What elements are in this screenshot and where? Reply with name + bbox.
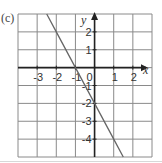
x-tick-label: -3 xyxy=(33,71,43,83)
graph-figure: (c) -3-2-101221-1-2-3-4 y x xyxy=(0,0,162,163)
x-tick-label: -2 xyxy=(52,71,62,83)
part-label: (c) xyxy=(1,11,14,25)
y-axis-label: y xyxy=(80,13,87,27)
y-axis-arrow-icon xyxy=(91,12,98,20)
x-axis-label: x xyxy=(142,63,149,77)
y-tick-label: 2 xyxy=(85,26,91,38)
x-tick-label: 1 xyxy=(112,71,118,83)
y-tick-label: -4 xyxy=(82,133,92,145)
y-tick-label: -2 xyxy=(82,97,92,109)
y-tick-label: 1 xyxy=(85,44,91,56)
y-tick-label: -3 xyxy=(82,115,92,127)
x-tick-label: 2 xyxy=(131,71,137,83)
